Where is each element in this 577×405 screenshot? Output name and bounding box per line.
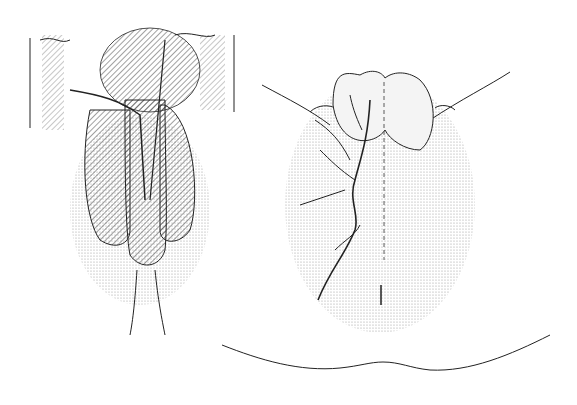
lower-contour (222, 335, 550, 370)
central-body (125, 100, 166, 265)
upper-mass (100, 28, 200, 112)
left-panel (30, 28, 234, 335)
illustration (0, 0, 577, 405)
thigh-right (200, 35, 225, 110)
outline (430, 72, 510, 120)
thigh-left (42, 35, 64, 130)
right-panel (222, 71, 550, 370)
